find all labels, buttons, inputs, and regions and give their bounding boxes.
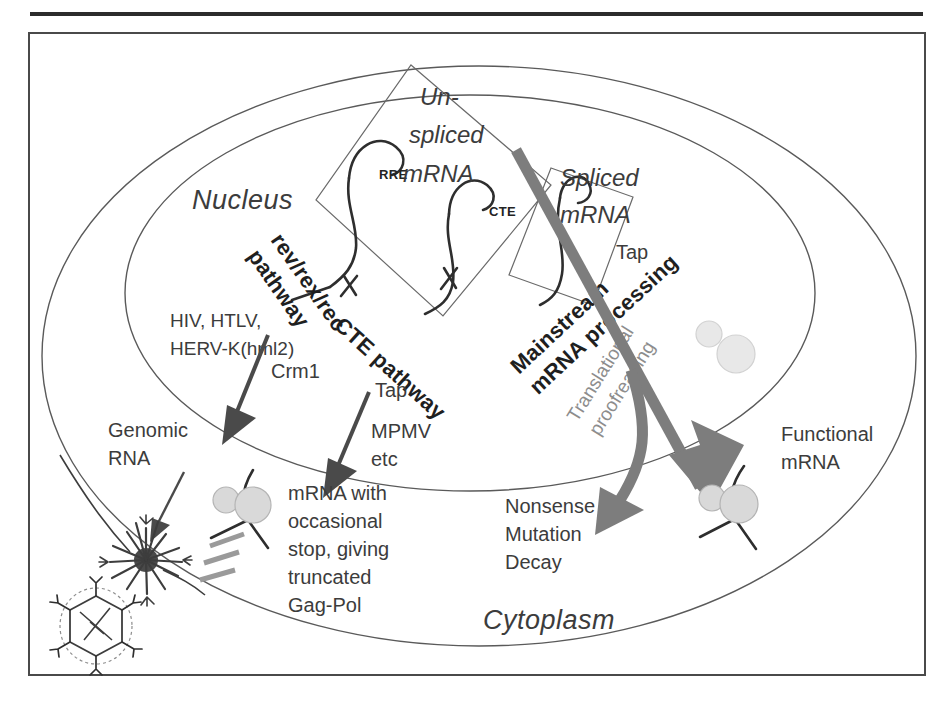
truncated-mrna-ribosome-icon <box>200 470 271 580</box>
proofreading-ribosome-icon <box>696 321 755 373</box>
virus-family-label: HIV, HTLV, HERV-K(hml2) <box>170 310 294 359</box>
mpmv-label: MPMV etc <box>371 420 432 470</box>
svg-text:occasional: occasional <box>288 510 383 532</box>
figure-page: RRE CTE Nucleus Cytoplasm Un- spliced mR… <box>0 0 943 705</box>
svg-text:RNA: RNA <box>108 447 151 469</box>
genomic-rna-label: Genomic RNA <box>108 419 188 469</box>
svg-text:etc: etc <box>371 448 398 470</box>
nmd-label: Nonsense Mutation Decay <box>505 495 595 573</box>
svg-text:Un-: Un- <box>420 83 459 110</box>
svg-text:Mutation: Mutation <box>505 523 582 545</box>
pathway-diagram: RRE CTE Nucleus Cytoplasm Un- spliced mR… <box>0 0 943 705</box>
svg-text:HIV, HTLV,: HIV, HTLV, <box>170 310 261 331</box>
svg-text:mRNA: mRNA <box>403 160 474 187</box>
svg-text:Spliced: Spliced <box>560 164 639 191</box>
crm1-label: Crm1 <box>271 360 320 382</box>
svg-text:CTE pathway: CTE pathway <box>330 312 451 425</box>
cte-rna-strand: CTE <box>425 181 516 314</box>
tap-left-label: Tap <box>375 379 407 401</box>
spliced-mrna-title: Spliced mRNA <box>560 164 639 228</box>
svg-text:stop, giving: stop, giving <box>288 538 389 560</box>
svg-text:mRNA: mRNA <box>560 201 631 228</box>
top-rule <box>30 12 923 16</box>
functional-mrna-label: Functional mRNA <box>781 423 873 473</box>
svg-text:Nonsense: Nonsense <box>505 495 595 517</box>
nucleus-label: Nucleus <box>192 185 293 215</box>
svg-text:mRNA with: mRNA with <box>288 482 387 504</box>
svg-text:Decay: Decay <box>505 551 562 573</box>
svg-text:Functional: Functional <box>781 423 873 445</box>
unspliced-mrna-title: Un- spliced mRNA <box>403 83 484 187</box>
cte-label: CTE <box>489 204 516 219</box>
svg-text:truncated: truncated <box>288 566 371 588</box>
svg-text:mRNA: mRNA <box>781 451 841 473</box>
cytoplasm-label: Cytoplasm <box>483 605 615 635</box>
tap-right-label: Tap <box>616 241 648 263</box>
svg-text:spliced: spliced <box>409 121 484 148</box>
svg-text:Genomic: Genomic <box>108 419 188 441</box>
svg-text:HERV-K(hml2): HERV-K(hml2) <box>170 338 294 359</box>
cte-pathway-label: CTE pathway <box>330 312 451 425</box>
mature-virion-icon <box>50 577 142 675</box>
truncated-gagpol-label: mRNA with occasional stop, giving trunca… <box>288 482 389 616</box>
truncated-peptides <box>200 534 244 580</box>
svg-text:Gag-Pol: Gag-Pol <box>288 594 361 616</box>
svg-text:MPMV: MPMV <box>371 420 432 442</box>
